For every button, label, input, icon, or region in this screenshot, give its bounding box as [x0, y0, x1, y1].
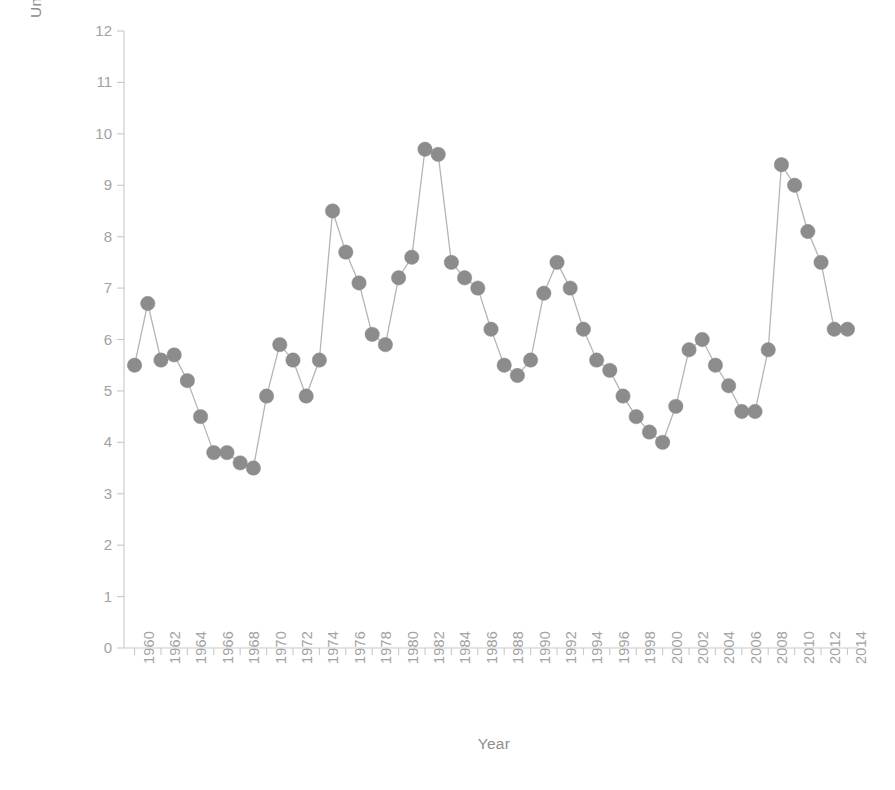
x-axis-title: Year: [124, 735, 864, 753]
data-point-marker: [457, 271, 471, 285]
data-point-marker: [325, 204, 339, 218]
data-point-marker: [405, 250, 419, 264]
data-point-marker: [642, 425, 656, 439]
data-point-marker: [695, 332, 709, 346]
data-point-marker: [748, 404, 762, 418]
data-point-marker: [801, 224, 815, 238]
data-point-marker: [787, 178, 801, 192]
data-point-marker: [708, 358, 722, 372]
data-point-marker: [299, 389, 313, 403]
data-point-marker: [655, 435, 669, 449]
data-point-marker: [537, 286, 551, 300]
data-point-marker: [312, 353, 326, 367]
data-point-marker: [774, 157, 788, 171]
data-point-marker: [193, 409, 207, 423]
data-point-marker: [352, 276, 366, 290]
data-point-marker: [259, 389, 273, 403]
data-point-marker: [391, 271, 405, 285]
data-point-marker: [761, 343, 775, 357]
data-point-marker: [339, 245, 353, 259]
data-point-marker: [840, 322, 854, 336]
data-point-marker: [616, 389, 630, 403]
data-point-marker: [154, 353, 168, 367]
data-point-marker: [682, 343, 696, 357]
data-point-marker: [576, 322, 590, 336]
data-point-marker: [629, 409, 643, 423]
data-point-marker: [233, 456, 247, 470]
data-point-marker: [365, 327, 379, 341]
data-point-marker: [180, 373, 194, 387]
plot-area: [0, 0, 895, 790]
data-point-marker: [563, 281, 577, 295]
data-point-marker: [603, 363, 617, 377]
data-point-marker: [735, 404, 749, 418]
data-point-marker: [431, 147, 445, 161]
data-point-marker: [141, 296, 155, 310]
data-point-marker: [444, 255, 458, 269]
data-point-marker: [220, 445, 234, 459]
data-point-marker: [471, 281, 485, 295]
data-point-marker: [273, 337, 287, 351]
data-point-marker: [550, 255, 564, 269]
data-point-marker: [510, 368, 524, 382]
data-point-marker: [523, 353, 537, 367]
data-point-marker: [814, 255, 828, 269]
data-point-marker: [378, 337, 392, 351]
data-point-marker: [246, 461, 260, 475]
data-point-marker: [418, 142, 432, 156]
data-point-marker: [207, 445, 221, 459]
data-point-marker: [589, 353, 603, 367]
data-point-marker: [669, 399, 683, 413]
data-point-marker: [484, 322, 498, 336]
data-point-marker: [721, 379, 735, 393]
data-point-marker: [286, 353, 300, 367]
data-point-marker: [497, 358, 511, 372]
data-point-marker: [127, 358, 141, 372]
data-point-marker: [827, 322, 841, 336]
data-point-marker: [167, 348, 181, 362]
chart-figure: Unemployment Rate (%) 0123456789101112 1…: [0, 0, 895, 790]
